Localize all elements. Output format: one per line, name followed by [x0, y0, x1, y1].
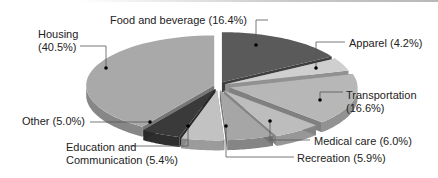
label-medical: Medical care (6.0%) — [314, 135, 412, 148]
label-food: Food and beverage (16.4%) — [110, 14, 247, 27]
label-education-line1: Education and — [66, 141, 178, 154]
label-housing-line2: (40.5%) — [38, 41, 78, 54]
label-housing: Housing (40.5%) — [38, 28, 78, 54]
label-transportation-line1: Transportation — [346, 89, 417, 102]
label-recreation: Recreation (5.9%) — [297, 152, 386, 165]
label-apparel: Apparel (4.2%) — [349, 37, 422, 50]
label-education: Education and Communication (5.4%) — [66, 141, 178, 167]
label-housing-line1: Housing — [38, 28, 78, 41]
label-education-line2: Communication (5.4%) — [66, 154, 178, 167]
label-other: Other (5.0%) — [22, 115, 85, 128]
label-transportation: Transportation (16.6%) — [346, 89, 417, 115]
label-transportation-line2: (16.6%) — [346, 102, 417, 115]
